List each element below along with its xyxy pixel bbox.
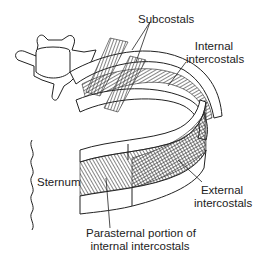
sternum-edge (31, 140, 33, 230)
diagram-artwork (0, 0, 260, 256)
label-internal-intercostals: Internal intercostals (186, 40, 242, 66)
label-parasternal-internal-intercostals: Parasternal portion of internal intercos… (86, 227, 194, 253)
label-sternum: Sternum (37, 176, 80, 189)
label-external-intercostals: External intercostals (194, 184, 250, 210)
label-external-line2: intercostals (194, 197, 250, 210)
label-external-line1: External (194, 184, 250, 197)
label-parasternal-line1: Parasternal portion of (86, 227, 194, 240)
label-internal-line1: Internal (186, 40, 242, 53)
label-parasternal-line2: internal intercostals (86, 240, 194, 253)
label-internal-line2: intercostals (186, 53, 242, 66)
intercostal-anatomy-diagram: Subcostals Internal intercostals Sternum… (0, 0, 260, 256)
label-subcostals: Subcostals (138, 13, 194, 26)
